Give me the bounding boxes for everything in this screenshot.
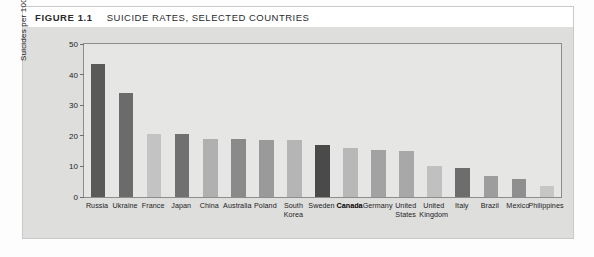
bar-slot: [449, 44, 477, 197]
figure-title: SUICIDE RATES, SELECTED COUNTRIES: [107, 12, 310, 23]
bar: [484, 176, 499, 197]
bar: [315, 145, 330, 197]
bar-slot: [112, 44, 140, 197]
figure-number: FIGURE 1.1: [35, 12, 93, 23]
bar: [455, 168, 470, 197]
y-axis-label: Suicides per 100 000 population: [19, 0, 28, 61]
bar-series: [84, 44, 561, 197]
y-tick-20: 20: [50, 131, 84, 140]
bar: [203, 139, 218, 197]
y-tick-40: 40: [50, 70, 84, 79]
y-tick-30: 30: [50, 101, 84, 110]
bar-slot: [252, 44, 280, 197]
chart-panel: Suicides per 100 000 population 01020304…: [22, 27, 574, 239]
bar-slot: [533, 44, 561, 197]
bar-slot: [477, 44, 505, 197]
bar-slot: [168, 44, 196, 197]
bar: [175, 134, 190, 197]
bar-slot: [365, 44, 393, 197]
figure-page: FIGURE 1.1 SUICIDE RATES, SELECTED COUNT…: [0, 0, 594, 257]
bar-slot: [421, 44, 449, 197]
bar: [287, 140, 302, 197]
y-tick-10: 10: [50, 162, 84, 171]
bar-slot: [224, 44, 252, 197]
bar: [427, 166, 442, 197]
bar-slot: [393, 44, 421, 197]
bar-slot: [308, 44, 336, 197]
plot-area: 01020304050: [83, 43, 562, 198]
bar: [343, 148, 358, 197]
bar: [231, 139, 246, 197]
bar: [399, 151, 414, 197]
y-tick-50: 50: [50, 40, 84, 49]
bar: [91, 64, 106, 197]
bar: [540, 186, 555, 197]
bar: [371, 150, 386, 197]
x-axis-labels: RussiaUkraineFranceJapanChinaAustraliaPo…: [83, 201, 562, 231]
bar-slot: [84, 44, 112, 197]
bar: [119, 93, 134, 197]
bar: [147, 134, 162, 197]
bar: [259, 140, 274, 197]
bar-slot: [337, 44, 365, 197]
bar: [512, 179, 527, 197]
bar-slot: [196, 44, 224, 197]
figure-title-bar: FIGURE 1.1 SUICIDE RATES, SELECTED COUNT…: [22, 6, 574, 27]
bar-slot: [505, 44, 533, 197]
x-label-philippines: Philippines: [526, 201, 566, 210]
bar-slot: [140, 44, 168, 197]
bar-slot: [280, 44, 308, 197]
